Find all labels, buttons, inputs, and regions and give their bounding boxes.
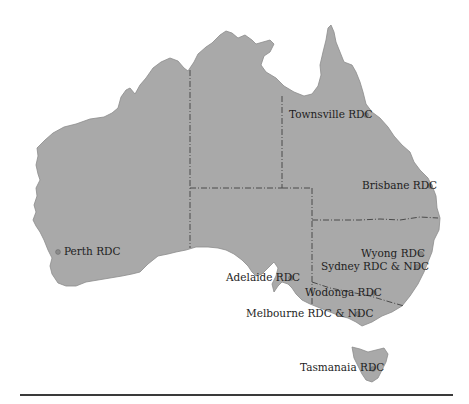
label-melbourne: Melbourne RDC & NDC — [246, 308, 373, 319]
perth-marker[interactable] — [56, 250, 61, 255]
bottom-divider — [20, 394, 453, 396]
label-townsville: Townsville RDC — [289, 109, 373, 120]
label-perth: Perth RDC — [64, 246, 121, 257]
label-adelaide: Adelaide RDC — [226, 272, 300, 283]
label-sydney: Sydney RDC & NDC — [321, 261, 429, 272]
label-wyong: Wyong RDC — [361, 248, 425, 259]
label-wodonga: Wodonga RDC — [305, 287, 382, 298]
australia-map — [0, 0, 469, 404]
label-tasmania: Tasmanaia RDC — [300, 362, 384, 373]
label-brisbane: Brisbane RDC — [362, 180, 437, 191]
